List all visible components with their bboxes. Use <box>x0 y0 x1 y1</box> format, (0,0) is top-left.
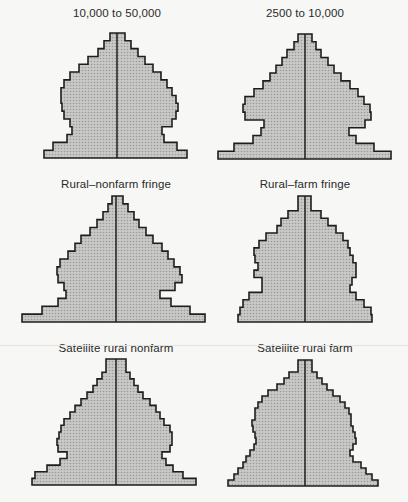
pyramid-shape <box>22 196 205 322</box>
population-pyramid-1 <box>44 33 187 158</box>
population-pyramid-4 <box>238 196 372 322</box>
population-pyramid-2 <box>218 34 391 159</box>
figure: 10,000 to 50,000 2500 to 10,000 Rural–no… <box>0 0 408 502</box>
pyramid-plots <box>0 0 408 502</box>
pyramid-shape <box>32 359 196 485</box>
pyramid-shape <box>44 33 187 158</box>
pyramid-shape <box>228 360 378 486</box>
population-pyramid-3 <box>22 196 205 322</box>
population-pyramid-5 <box>32 359 196 485</box>
population-pyramid-6 <box>228 360 378 486</box>
